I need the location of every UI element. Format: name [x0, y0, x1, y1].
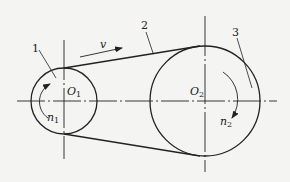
- small-pulley-speed-label: n1: [47, 112, 59, 125]
- part-label-1: 1: [32, 43, 39, 54]
- leader-line-3: [237, 38, 252, 88]
- part-label-2: 2: [141, 20, 148, 31]
- large-pulley-center-label: O2: [190, 86, 204, 99]
- small-pulley-center-label: O1: [67, 86, 81, 99]
- center-letter: O: [190, 85, 199, 98]
- center-letter: O: [67, 85, 76, 98]
- belt-lower-span: [64, 134, 200, 156]
- leader-line-2: [146, 32, 153, 53]
- center-subscript: 2: [199, 90, 204, 99]
- speed-subscript: 1: [54, 116, 59, 125]
- belt-upper-span: [64, 46, 200, 68]
- center-subscript: 1: [76, 90, 81, 99]
- velocity-label: v: [100, 39, 106, 50]
- large-pulley-speed-label: n2: [220, 116, 232, 129]
- part-label-3: 3: [232, 27, 239, 38]
- speed-subscript: 2: [227, 120, 232, 129]
- leader-line-1: [39, 50, 56, 78]
- rotation-arrow-n2: [223, 72, 238, 118]
